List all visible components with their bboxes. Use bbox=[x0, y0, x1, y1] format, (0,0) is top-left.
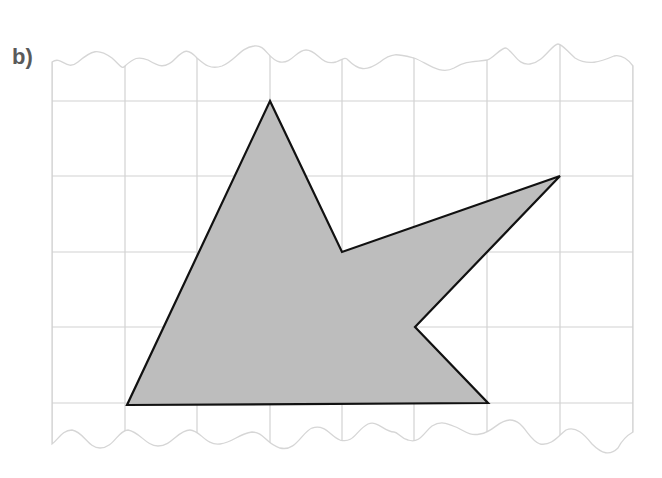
grid-figure bbox=[0, 0, 662, 478]
shaded-polygon bbox=[127, 101, 560, 405]
